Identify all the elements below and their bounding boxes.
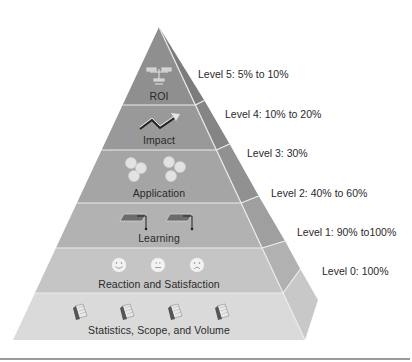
bottom-divider-line — [0, 358, 410, 360]
level-2-percentage: Level 2: 40% to 60% — [271, 187, 367, 199]
pyramid-graphic — [0, 0, 412, 362]
level-0-percentage: Level 0: 100% — [322, 265, 389, 277]
level-1-percentage: Level 1: 90% to100% — [297, 226, 396, 238]
happy-face-icon — [112, 258, 127, 273]
level-3-percentage: Level 3: 30% — [247, 147, 308, 159]
tier-4-label: Impact — [143, 134, 175, 146]
evaluation-pyramid-diagram: ROI Impact Application Learning Reaction… — [0, 0, 412, 362]
tier-3-label: Application — [133, 187, 185, 199]
tier-1-label: Reaction and Satisfaction — [98, 278, 220, 290]
neutral-face-icon — [151, 258, 166, 273]
sad-face-icon — [190, 258, 205, 273]
level-5-percentage: Level 5: 5% to 10% — [198, 68, 288, 80]
tier-0-label: Statistics, Scope, and Volume — [88, 324, 230, 336]
tier-5-label: ROI — [150, 90, 169, 102]
level-4-percentage: Level 4: 10% to 20% — [225, 108, 321, 120]
tier-2-label: Learning — [138, 232, 180, 244]
